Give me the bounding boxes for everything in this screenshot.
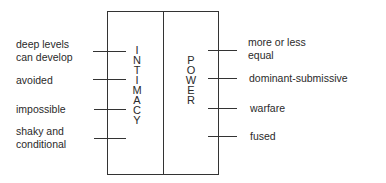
- right-tick: [208, 108, 237, 109]
- power-label-dominant-submissive: dominant-submissive: [249, 72, 348, 85]
- intimacy-axis-title: I N T I M A C Y: [131, 45, 143, 125]
- label-line: fused: [250, 130, 276, 143]
- label-line: conditional: [16, 138, 66, 151]
- power-axis-title: P O W E R: [185, 55, 197, 105]
- label-line: deep levels: [16, 38, 73, 51]
- label-line: equal: [248, 49, 306, 62]
- right-tick: [208, 78, 237, 79]
- label-line: avoided: [16, 74, 53, 87]
- label-line: can develop: [16, 51, 73, 64]
- label-line: impossible: [16, 103, 66, 116]
- label-line: dominant-submissive: [249, 72, 348, 85]
- left-tick: [93, 79, 126, 80]
- left-tick: [93, 51, 126, 52]
- power-label-warfare: warfare: [250, 102, 285, 115]
- intimacy-label-shaky: shaky and conditional: [16, 125, 66, 150]
- intimacy-label-avoided: avoided: [16, 74, 53, 87]
- label-line: warfare: [250, 102, 285, 115]
- center-divider: [163, 11, 164, 175]
- left-tick: [94, 109, 126, 110]
- right-tick: [208, 136, 237, 137]
- letter: R: [185, 95, 197, 105]
- label-line: shaky and: [16, 125, 66, 138]
- left-tick: [94, 138, 126, 139]
- label-line: more or less: [248, 36, 306, 49]
- intimacy-label-impossible: impossible: [16, 103, 66, 116]
- right-tick: [208, 50, 237, 51]
- letter: Y: [131, 115, 143, 125]
- power-label-more-or-less-equal: more or less equal: [248, 36, 306, 61]
- power-label-fused: fused: [250, 130, 276, 143]
- intimacy-label-deep-levels: deep levels can develop: [16, 38, 73, 63]
